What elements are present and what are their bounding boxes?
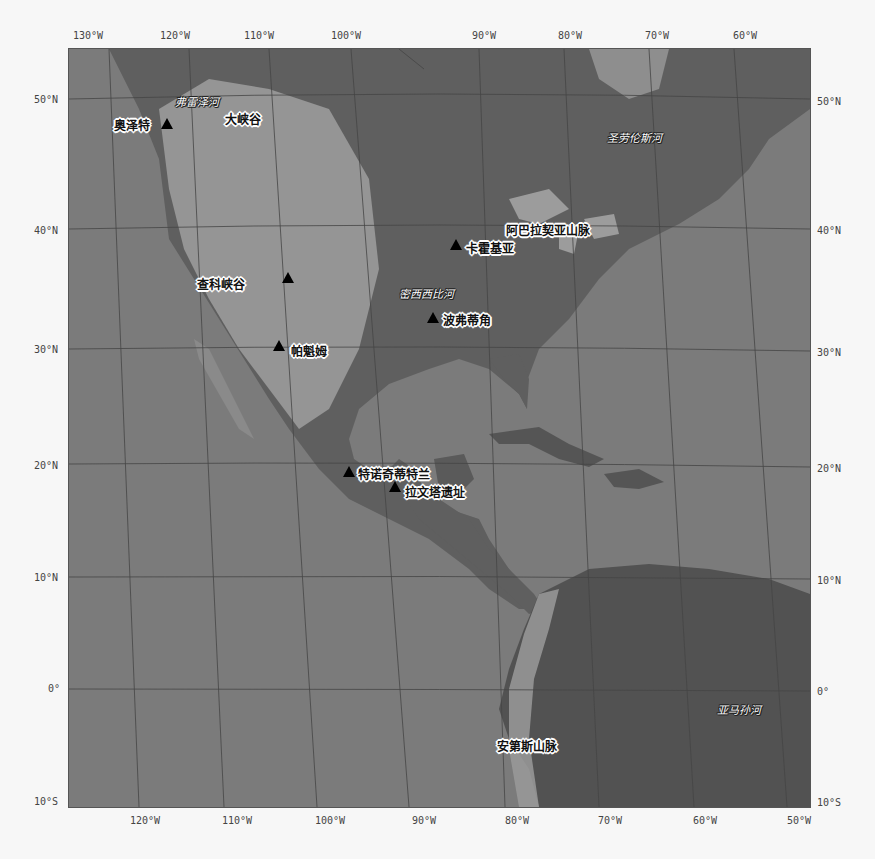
bottom-tick-60w: 60°W (693, 815, 717, 826)
top-tick-80w: 80°W (558, 30, 582, 41)
bottom-tick-90w: 90°W (412, 815, 436, 826)
site-label-ozette: 奥泽特 (114, 116, 150, 133)
bottom-tick-70w: 70°W (598, 815, 622, 826)
feature-label-st-lawrence-river: 圣劳伦斯河 (607, 129, 662, 145)
bottom-tick-50w: 50°W (787, 815, 811, 826)
feature-label-grand-canyon: 大峡谷 (225, 110, 261, 127)
site-label-cahokia: 卡霍基亚 (466, 239, 514, 256)
right-tick-30n: 30°N (817, 347, 841, 358)
site-label-chaco: 查科峡谷 (197, 275, 245, 292)
right-tick-40n: 40°N (817, 225, 841, 236)
feature-label-mississippi-river: 密西西比河 (399, 285, 454, 301)
top-tick-110w: 110°W (244, 30, 274, 41)
left-tick-20n: 20°N (34, 460, 58, 471)
top-tick-90w: 90°W (472, 30, 496, 41)
top-tick-70w: 70°W (645, 30, 669, 41)
bottom-tick-80w: 80°W (505, 815, 529, 826)
bottom-tick-110w: 110°W (222, 815, 252, 826)
site-marker-chaco[interactable] (282, 272, 294, 283)
right-tick-20n: 20°N (817, 463, 841, 474)
top-tick-60w: 60°W (733, 30, 757, 41)
top-tick-120w: 120°W (160, 30, 190, 41)
left-tick-40n: 40°N (34, 225, 58, 236)
right-tick-50n: 50°N (817, 96, 841, 107)
bottom-tick-120w: 120°W (130, 815, 160, 826)
feature-label-appalachian-mountains: 阿巴拉契亚山脉 (506, 221, 590, 238)
left-tick-0: 0° (48, 683, 60, 694)
bottom-tick-100w: 100°W (315, 815, 345, 826)
right-tick-10s: 10°S (817, 797, 841, 808)
site-marker-tenochtitlan[interactable] (343, 466, 355, 477)
site-label-tenochtitlan: 特诺奇蒂特兰 (358, 465, 430, 482)
top-tick-130w: 130°W (73, 30, 103, 41)
right-tick-10n: 10°N (817, 575, 841, 586)
left-tick-10s: 10°S (34, 796, 58, 807)
site-marker-cahokia[interactable] (450, 239, 462, 250)
map-canvas (69, 49, 810, 807)
site-label-poverty-point: 波弗蒂角 (443, 311, 491, 328)
top-tick-100w: 100°W (331, 30, 361, 41)
site-marker-ozette[interactable] (161, 118, 173, 129)
site-marker-la-venta[interactable] (389, 481, 401, 492)
left-tick-30n: 30°N (34, 344, 58, 355)
right-tick-0: 0° (817, 686, 829, 697)
left-tick-10n: 10°N (34, 572, 58, 583)
feature-label-amazon-river: 亚马孙河 (717, 701, 761, 717)
left-tick-50n: 50°N (34, 94, 58, 105)
site-marker-poverty-point[interactable] (427, 312, 439, 323)
site-label-la-venta: 拉文塔遗址 (405, 483, 465, 500)
feature-label-andes: 安第斯山脉 (497, 737, 557, 754)
map-frame[interactable]: 奥泽特 查科峡谷 帕魁姆 卡霍基亚 波弗蒂角 特诺奇蒂特兰 拉文塔遗址 弗雷泽河… (68, 48, 811, 808)
feature-label-fraser-river: 弗雷泽河 (175, 93, 219, 109)
site-label-paquime: 帕魁姆 (291, 342, 327, 359)
site-marker-paquime[interactable] (273, 340, 285, 351)
